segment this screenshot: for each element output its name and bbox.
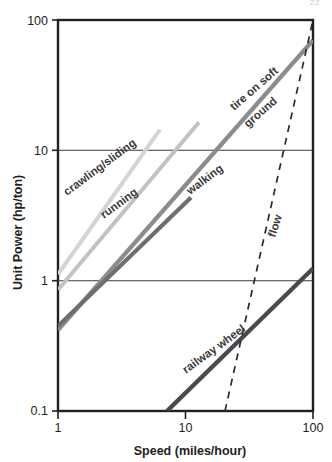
x-axis-title: Speed (miles/hour) (134, 444, 247, 458)
x-tick-label-100: 100 (303, 421, 324, 435)
figure-container: 22 crawling/sliding running tire on soft… (0, 0, 332, 462)
y-tick-label-0.1: 0.1 (31, 404, 48, 418)
y-axis-title: Unit Power (hp/ton) (11, 175, 25, 290)
x-axis: 1 10 100 Speed (miles/hour) (55, 411, 324, 458)
log-log-chart: crawling/sliding running tire on soft gr… (0, 0, 332, 462)
y-tick-label-100: 100 (27, 14, 48, 28)
y-tick-label-1: 1 (41, 274, 48, 288)
y-axis: 100 10 1 0.1 Unit Power (hp/ton) (11, 14, 58, 419)
x-tick-label-1: 1 (55, 421, 62, 435)
x-tick-label-10: 10 (179, 421, 193, 435)
y-tick-label-10: 10 (34, 144, 48, 158)
